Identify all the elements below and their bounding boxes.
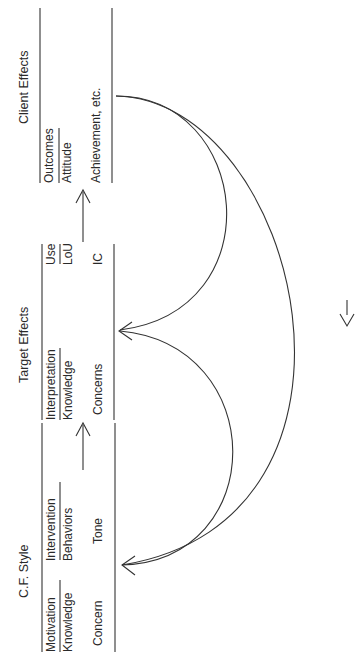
client-effects-title: Client Effects bbox=[18, 51, 31, 124]
arc-target-to-cf bbox=[120, 331, 233, 565]
target-effects-title: Target Effects bbox=[18, 307, 31, 383]
lou-label: LoU bbox=[62, 243, 74, 265]
outcomes-label: Outcomes bbox=[43, 128, 55, 183]
diagram-lines bbox=[0, 0, 364, 660]
interpretation-label: Interpretation bbox=[45, 349, 57, 420]
intervention-label: Intervention bbox=[45, 498, 57, 561]
feedback-loop-diagram: C.F. Style Target Effects Client Effects… bbox=[0, 0, 364, 660]
attitude-label: Attitude bbox=[61, 142, 73, 183]
ic-label: IC bbox=[92, 253, 104, 265]
use-label: Use bbox=[45, 244, 57, 265]
behaviors-label: Behaviors bbox=[62, 508, 74, 561]
concerns-label: Concerns bbox=[92, 364, 104, 415]
arc-client-to-cf bbox=[116, 96, 294, 565]
knowledge-label-cf: Knowledge bbox=[62, 593, 74, 652]
motivation-label: Motivation bbox=[45, 597, 57, 652]
concern-label: Concern bbox=[92, 601, 104, 646]
achievement-label: Achievement, etc. bbox=[90, 88, 102, 183]
cf-style-title: C.F. Style bbox=[18, 545, 31, 599]
arc-client-to-target bbox=[116, 96, 227, 330]
tone-label: Tone bbox=[92, 518, 104, 544]
knowledge-label-target: Knowledge bbox=[62, 361, 74, 420]
